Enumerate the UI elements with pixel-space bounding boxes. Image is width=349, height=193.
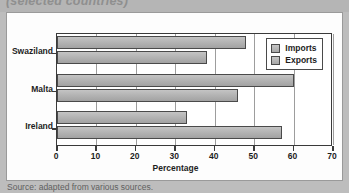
- x-axis-tick-label-70: 70: [327, 151, 336, 161]
- bar-group: [57, 72, 331, 110]
- y-axis-label-malta: Malta: [31, 84, 53, 94]
- y-axis-tick: [52, 128, 57, 130]
- x-axis-tick-label-20: 20: [130, 151, 139, 161]
- gray-swatch-icon: [271, 56, 280, 65]
- source-note: Source: adapted from various sources.: [7, 182, 153, 192]
- bar-swaziland-exports: [57, 51, 207, 64]
- x-axis-tick-label-0: 0: [54, 151, 59, 161]
- bar-ireland-exports: [57, 126, 282, 139]
- y-axis-tick: [52, 53, 57, 55]
- bar-ireland-imports: [57, 111, 187, 124]
- chart-legend: ImportsExports: [266, 38, 323, 70]
- x-axis-title: Percentage: [7, 163, 343, 173]
- gridline: [333, 34, 334, 145]
- legend-label: Exports: [285, 55, 317, 65]
- x-axis-tick-labels: 010203040506070: [7, 151, 343, 163]
- chart-card: SwazilandMaltaIreland ImportsExports 010…: [6, 12, 343, 181]
- x-axis-tick-label-60: 60: [288, 151, 297, 161]
- figure-title: (selected countries): [6, 0, 128, 8]
- x-axis-tick-label-50: 50: [248, 151, 257, 161]
- y-axis-label-ireland: Ireland: [25, 121, 53, 131]
- legend-label: Imports: [285, 43, 316, 53]
- plot-area: ImportsExports: [56, 33, 332, 146]
- bar-group: [57, 109, 331, 147]
- bar-malta-exports: [57, 89, 238, 102]
- y-axis-label-swaziland: Swaziland: [12, 46, 53, 56]
- figure-container: (selected countries) SwazilandMaltaIrela…: [0, 0, 349, 193]
- bar-malta-imports: [57, 74, 294, 87]
- gray-swatch-icon: [271, 44, 280, 53]
- y-axis-tick: [52, 91, 57, 93]
- figure-title-band: (selected countries): [0, 0, 349, 12]
- legend-item-imports: Imports: [271, 42, 317, 54]
- x-axis-tick-label-30: 30: [170, 151, 179, 161]
- bar-swaziland-imports: [57, 36, 246, 49]
- x-axis-tick-label-40: 40: [209, 151, 218, 161]
- legend-item-exports: Exports: [271, 54, 317, 66]
- y-axis-labels: SwazilandMaltaIreland: [7, 33, 53, 146]
- x-axis-tick-label-10: 10: [91, 151, 100, 161]
